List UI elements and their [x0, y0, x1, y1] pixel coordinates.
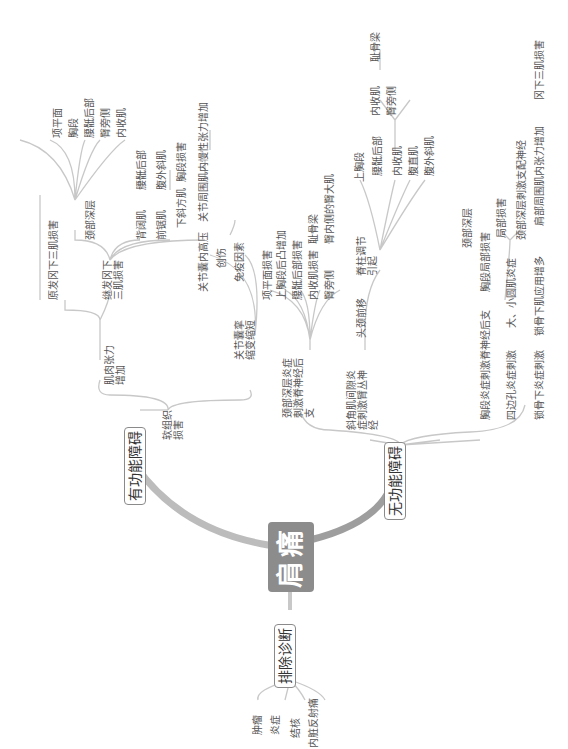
non-functional-label: 无功能障碍 [387, 446, 403, 516]
exclusion-item: 肿瘤 [252, 715, 263, 735]
deep-neck-item: 项平面 [52, 108, 63, 138]
deep-neck-item: 胸段 [68, 118, 79, 138]
node-teres[interactable]: 大、小圆肌炎症 [506, 258, 517, 328]
node-serratus[interactable]: 前锯肌 [156, 210, 167, 240]
spine-lumbo-item: 臀旁侧 [386, 86, 397, 116]
adductor-target: 耻骨梁 [308, 214, 319, 244]
spine-lumbosacral: 腰骶后部 [372, 136, 383, 176]
capsule-pressure-target: 关节周围肌内慢性张力增加 [198, 102, 209, 222]
deep-neck-item: 腰骶后部 [84, 98, 95, 138]
exclusion-item: 结核 [290, 718, 301, 738]
node-immune: 免疫因素 [234, 242, 245, 282]
inflam-item: 臀旁侧 [324, 270, 335, 300]
node-latissimus[interactable]: 背阔肌 [136, 210, 147, 240]
node-capsule-pressure[interactable]: 关节囊内高压 [198, 232, 209, 292]
spine-lumbo-item: 内收肌 [370, 86, 381, 116]
node-head-forward[interactable]: 头颈前移 [356, 298, 367, 338]
inflam-item: 项平面损害 [262, 250, 273, 300]
node-muscle-tension[interactable]: 肌肉张力增加 [104, 337, 126, 385]
deep-neck-item: 内收肌 [116, 108, 127, 138]
node-deep-neck-inflam[interactable]: 颈部深层炎症刺激脊神经后支 [282, 358, 315, 418]
node-deep-neck[interactable]: 颈部深层 [85, 200, 96, 240]
node-primary[interactable]: 原发冈下三肌损害 [48, 220, 59, 300]
node-soft-tissue[interactable]: 软组织损害 [162, 406, 184, 440]
node-capsule[interactable]: 关节囊挛缩变缩短 [234, 312, 256, 360]
root-node[interactable]: 肩痛 [268, 522, 314, 592]
node-lower-trapezius[interactable]: 下斜方肌 [176, 188, 187, 228]
serratus-target: 腹外斜肌 [156, 150, 167, 190]
lower-trapezius-target: 胸段损害 [176, 142, 187, 182]
node-trauma: 创伤 [216, 248, 227, 268]
deep-neck-item: 臀旁侧 [100, 108, 111, 138]
spine-item: 腹外斜肌 [424, 136, 435, 176]
teres-item: 局部损害 [496, 198, 507, 238]
teres-item: 颈部深层刺激支配神经 [516, 140, 527, 240]
spine-item: 内收肌 [392, 146, 403, 176]
root-label: 肩痛 [275, 526, 306, 588]
inflam-item: 上胸段后凸增加 [276, 230, 287, 300]
exclusion-item: 内脏反射痛 [308, 698, 319, 748]
node-deep-neck2: 颈部深层 [462, 208, 473, 248]
spine-item: 腹直肌 [408, 146, 419, 176]
node-subclavian[interactable]: 锁骨下炎症刺激 [534, 350, 545, 420]
inflam-item: 内收肌损害 [308, 250, 319, 300]
spine-adductor-target: 耻骨梁 [370, 32, 381, 62]
node-scalene[interactable]: 斜角肌间隙炎症刺激臂丛神经 [346, 366, 379, 430]
node-thoracic[interactable]: 胸段炎症刺激脊神经后支 [480, 310, 491, 420]
node-quadrilateral[interactable]: 四边孔炎症刺激 [506, 350, 517, 420]
functional-label: 有功能障碍 [127, 431, 143, 501]
exclusion-label: 排除诊断 [277, 628, 293, 684]
subclavian-target3: 冈下三肌损害 [534, 40, 545, 100]
subclavian-target2: 肩部周围肌内张力增加 [534, 126, 545, 226]
spine-upper: 上胸段 [354, 152, 365, 182]
gluteal-target: 臀内侧的臀大肌 [324, 174, 335, 244]
subclavian-target: 锁骨下肌应用增多 [534, 256, 545, 336]
node-spine-adjust[interactable]: 脊柱调节引起 [356, 234, 378, 276]
exclusion-item: 炎症 [270, 715, 281, 735]
inflam-item: 腰骶后部损害 [292, 240, 303, 300]
mind-map-canvas: 肩痛 排除诊断 肿瘤 炎症 结核 内脏反射痛 有功能障碍 软组织损害 肌肉张力增… [0, 0, 568, 749]
node-secondary[interactable]: 继发冈下三肌损害 [102, 252, 124, 300]
latissimus-target: 腰骶后部 [136, 150, 147, 190]
node-non-functional[interactable]: 无功能障碍 [384, 442, 406, 520]
thoracic-target: 胸段局部损害 [480, 232, 491, 292]
node-exclusion[interactable]: 排除诊断 [274, 624, 296, 688]
node-functional[interactable]: 有功能障碍 [124, 427, 146, 505]
